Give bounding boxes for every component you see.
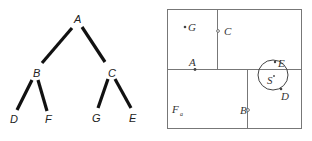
tree-node-c: C xyxy=(108,67,116,79)
tree-node-d: D xyxy=(10,113,18,125)
point-g-marker xyxy=(184,26,187,29)
tree-edge-b-f xyxy=(38,80,47,111)
tree-node-g: G xyxy=(92,112,101,124)
tree-edge-b-d xyxy=(17,80,32,110)
point-g-label: G xyxy=(188,21,196,33)
tree-node-e: E xyxy=(129,112,137,124)
point-s-marker xyxy=(273,75,275,77)
tree-edge-a-b xyxy=(42,28,72,63)
tree-node-a: A xyxy=(73,13,81,25)
point-e-marker xyxy=(274,61,276,63)
point-c-label: C xyxy=(224,25,232,37)
point-b-label: B xyxy=(240,104,247,116)
partition-diagram: G C A E S D B F a xyxy=(168,10,302,129)
tree-diagram: A B C D F G E xyxy=(10,13,137,125)
point-b-marker xyxy=(247,109,250,112)
point-a-marker xyxy=(194,68,197,71)
point-c-marker xyxy=(217,30,220,33)
tree-node-f: F xyxy=(45,113,53,125)
tree-node-b: B xyxy=(33,67,40,79)
tree-edge-c-e xyxy=(115,79,131,108)
point-a-label: A xyxy=(188,56,196,68)
point-d-label: D xyxy=(280,90,289,102)
tree-edge-c-g xyxy=(98,79,108,108)
region-f-subscript: a xyxy=(180,111,183,117)
region-f-label: F xyxy=(171,103,179,115)
tree-edge-a-c xyxy=(82,27,105,62)
point-s-label: S xyxy=(267,74,273,86)
point-e-label: E xyxy=(277,57,285,69)
figure: A B C D F G E G C A E S D B F xyxy=(0,0,312,141)
